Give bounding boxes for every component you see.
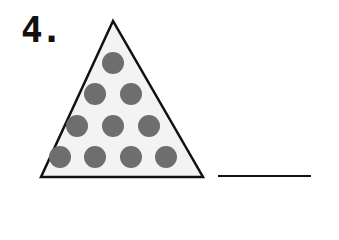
dot (102, 115, 124, 137)
dot (102, 52, 124, 74)
dot (155, 146, 177, 168)
dot (120, 83, 142, 105)
dot (120, 146, 142, 168)
dot (49, 146, 71, 168)
dot (138, 115, 160, 137)
answer-text[interactable] (218, 150, 311, 174)
dot (66, 115, 88, 137)
dot (84, 146, 106, 168)
dot (84, 83, 106, 105)
